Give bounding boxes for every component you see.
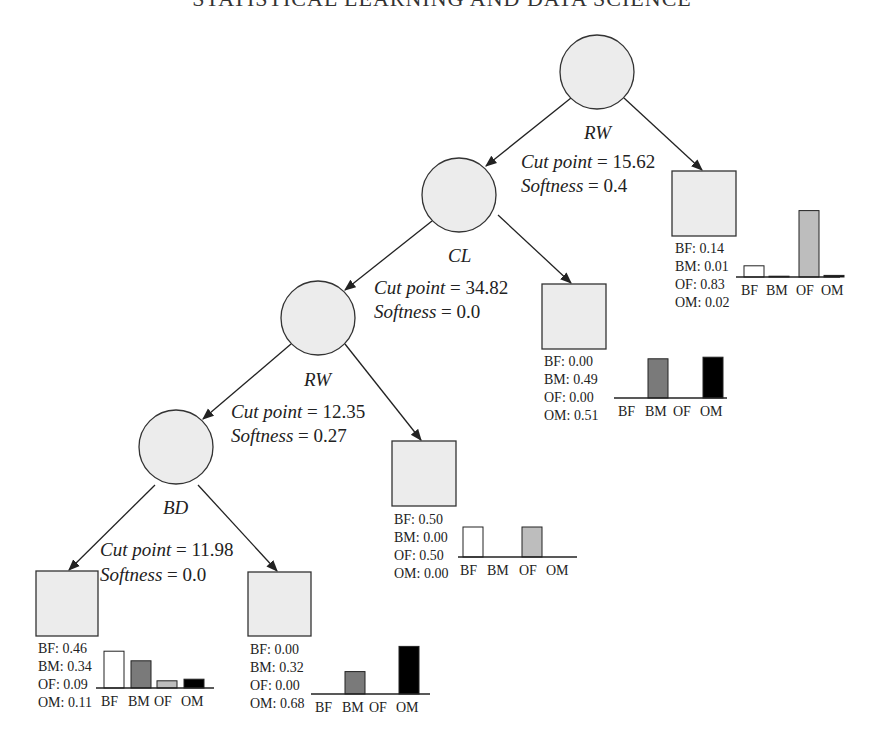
bar-category-label: OM: [181, 694, 204, 709]
bar-bf: [744, 266, 764, 277]
class-probability: BF: 0.00: [250, 642, 299, 657]
class-probability: BF: 0.14: [675, 241, 724, 256]
leaf-box: [672, 171, 736, 236]
class-probability: OM: 0.68: [250, 696, 304, 711]
bar-om: [184, 679, 204, 688]
class-probability: OF: 0.50: [394, 548, 444, 563]
class-probability: BM: 0.34: [38, 659, 92, 674]
bar-category-label: BF: [741, 283, 758, 298]
node-circle: [560, 35, 634, 109]
leaf-box: [392, 441, 456, 506]
leaf-4: BF: 0.46BM: 0.34OF: 0.09OM: 0.11BFBMOFOM: [36, 571, 214, 710]
bar-category-label: BF: [618, 404, 635, 419]
node-cl: CL Cut point = 34.82 Softness = 0.0: [374, 158, 508, 322]
class-distribution-bar-chart: BFBMOFOM: [96, 651, 214, 709]
class-probability: OF: 0.83: [675, 277, 725, 292]
node-root: RW Cut point = 15.62 Softness = 0.4: [521, 35, 655, 196]
bar-category-label: OM: [396, 700, 419, 715]
softness-text: Softness = 0.27: [231, 425, 347, 446]
edge-cl-to-leaf2: [498, 215, 571, 283]
class-probability: BM: 0.01: [675, 259, 729, 274]
bar-bm: [648, 359, 668, 398]
softness-text: Softness = 0.0: [100, 564, 206, 585]
class-probability: OM: 0.00: [394, 566, 448, 581]
class-probability: OF: 0.00: [544, 390, 594, 405]
class-probability: BM: 0.32: [250, 660, 304, 675]
cut-point-text: Cut point = 34.82: [374, 277, 508, 298]
bar-of: [522, 527, 542, 557]
node-bd: BD Cut point = 11.98 Softness = 0.0: [100, 410, 234, 585]
node-variable-label: CL: [448, 245, 471, 266]
node-rw: RW Cut point = 12.35 Softness = 0.27: [231, 281, 365, 446]
soft-decision-tree: RW Cut point = 15.62 Softness = 0.4 CL C…: [0, 0, 884, 746]
class-probability: OM: 0.11: [38, 695, 92, 710]
bar-of: [799, 211, 819, 277]
class-probability: OF: 0.00: [250, 678, 300, 693]
bar-om: [703, 357, 723, 398]
class-probability: OF: 0.09: [38, 677, 88, 692]
class-probability: BM: 0.00: [394, 530, 448, 545]
leaf-5: BF: 0.00BM: 0.32OF: 0.00OM: 0.68BFBMOFOM: [248, 572, 430, 715]
cut-point-text: Cut point = 15.62: [521, 151, 655, 172]
bar-category-label: BF: [101, 694, 118, 709]
cut-point-text: Cut point = 12.35: [231, 401, 365, 422]
bar-category-label: OF: [369, 700, 387, 715]
leaf-1: BF: 0.14BM: 0.01OF: 0.83OM: 0.02BFBMOFOM: [672, 171, 844, 310]
class-probability: BF: 0.00: [544, 354, 593, 369]
bar-category-label: OF: [154, 694, 172, 709]
bar-bm: [131, 661, 151, 688]
class-probability: OM: 0.51: [544, 408, 598, 423]
bar-bf: [463, 527, 483, 557]
bar-bm: [345, 672, 365, 694]
class-distribution-bar-chart: BFBMOFOM: [736, 211, 844, 298]
bar-category-label: OM: [821, 283, 844, 298]
bar-category-label: OF: [673, 404, 691, 419]
class-distribution-bar-chart: BFBMOFOM: [458, 527, 577, 578]
softness-text: Softness = 0.4: [521, 175, 628, 196]
node-circle: [422, 158, 496, 232]
cut-point-text: Cut point = 11.98: [100, 539, 234, 560]
bar-bf: [104, 651, 124, 688]
bar-category-label: BM: [487, 563, 509, 578]
node-variable-label: RW: [303, 369, 333, 390]
bar-category-label: BF: [460, 563, 477, 578]
leaf-box: [542, 284, 606, 349]
leaf-3: BF: 0.50BM: 0.00OF: 0.50OM: 0.00BFBMOFOM: [392, 441, 577, 581]
edge-rw-to-leaf3: [345, 344, 421, 440]
leaf-box: [248, 572, 311, 636]
node-circle: [281, 281, 355, 355]
class-probability: BF: 0.46: [38, 641, 87, 656]
bar-of: [157, 681, 177, 688]
leaf-box: [36, 571, 98, 636]
node-variable-label: RW: [583, 122, 613, 143]
class-probability: OM: 0.02: [675, 295, 729, 310]
bar-category-label: BM: [645, 404, 667, 419]
softness-text: Softness = 0.0: [374, 301, 480, 322]
class-distribution-bar-chart: BFBMOFOM: [311, 646, 430, 715]
bar-category-label: BM: [128, 694, 150, 709]
bar-category-label: OM: [700, 404, 723, 419]
class-distribution-bar-chart: BFBMOFOM: [614, 357, 727, 419]
node-circle: [139, 410, 213, 484]
bar-category-label: OF: [519, 563, 537, 578]
class-probability: BM: 0.49: [544, 372, 598, 387]
bar-category-label: OM: [546, 563, 569, 578]
bar-category-label: OF: [796, 283, 814, 298]
node-variable-label: BD: [163, 497, 189, 518]
bar-om: [399, 646, 419, 694]
bar-category-label: BF: [315, 700, 332, 715]
class-probability: BF: 0.50: [394, 512, 443, 527]
bar-category-label: BM: [342, 700, 364, 715]
bar-category-label: BM: [766, 283, 788, 298]
